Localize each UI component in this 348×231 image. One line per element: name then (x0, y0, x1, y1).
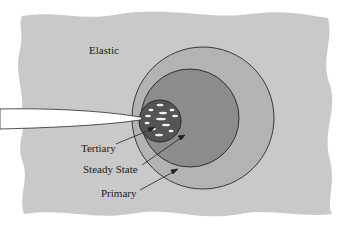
creep-zone-diagram (0, 0, 348, 231)
label-elastic: Elastic (89, 45, 119, 56)
label-steady-state: Steady State (83, 164, 138, 175)
label-tertiary: Tertiary (81, 143, 116, 154)
label-primary: Primary (101, 188, 136, 199)
